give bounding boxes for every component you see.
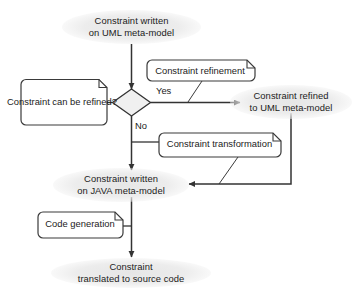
edge-label-yes: Yes [156,85,171,96]
edge-label-no: No [135,120,147,131]
note-label-constraint-can-be-refined: Constraint can be refined? [21,84,103,120]
decision-diamond [113,89,151,116]
note-label-constraint-refinement: Constraint refinement [150,62,250,79]
state-constraint-refined-uml: Constraint refined to UML meta-model [230,85,352,119]
state-constraint-translated-source: Constraint translated to source code [51,258,211,288]
note-label-code-generation: Code generation [42,214,118,234]
note-label-constraint-transformation: Constraint transformation [163,135,276,153]
note-anchor-constraint-refinement [188,81,202,102]
flowchart-diagram: Constraint written on UML meta-model Con… [0,0,352,289]
state-constraint-written-uml: Constraint written on UML meta-model [62,10,201,44]
note-anchor-constraint-transformation [219,157,238,184]
state-constraint-written-java: Constraint written on JAVA meta-model [53,168,189,202]
